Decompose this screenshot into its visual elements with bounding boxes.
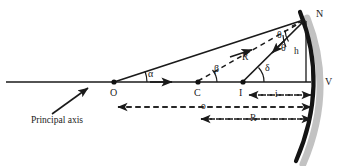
angle-arc-alpha — [145, 71, 147, 82]
dimension-label-o: o — [201, 102, 206, 112]
angle-label-delta: δ — [265, 63, 270, 73]
angle-label-theta-reflected: θ — [281, 43, 286, 53]
angle-arc-delta — [259, 68, 265, 83]
angle-label-theta-incident: θ — [277, 30, 282, 40]
point-label-V: V — [325, 77, 332, 87]
diagram-canvas — [0, 0, 346, 166]
segment-label-R-radius: R — [242, 53, 248, 63]
dimension-label-i: i — [275, 90, 278, 100]
principal-axis-caption: Principal axis — [31, 116, 83, 126]
point-label-O: O — [110, 88, 117, 98]
point-label-C: C — [194, 88, 201, 98]
ray-diagram-figure: O C I V N α β θ θ δ R h i o R Principal … — [0, 0, 346, 166]
angle-label-beta: β — [214, 64, 219, 74]
angle-label-alpha: α — [148, 69, 153, 79]
dimension-label-R: R — [250, 114, 256, 124]
point-label-I: I — [239, 88, 242, 98]
segment-label-h-height: h — [294, 47, 299, 57]
point-label-N: N — [316, 9, 323, 19]
principal-axis-pointer-arrow — [52, 88, 88, 114]
